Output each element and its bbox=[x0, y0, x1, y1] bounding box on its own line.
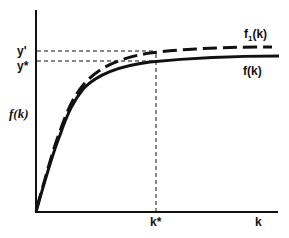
f1-k-label-arg: (k) bbox=[252, 27, 267, 41]
f-k-label: f(k) bbox=[243, 64, 262, 78]
x-axis-label: k bbox=[255, 215, 262, 229]
y-star-label: y* bbox=[17, 59, 29, 73]
y-axis-label: f(k) bbox=[9, 106, 29, 121]
production-function-chart: y' y* f(k) f1(k) f(k) k* k bbox=[0, 0, 289, 238]
k-star-label: k* bbox=[150, 215, 162, 229]
f1-k-curve bbox=[37, 47, 272, 207]
y-prime-label: y' bbox=[17, 44, 27, 58]
f-k-curve bbox=[36, 56, 279, 212]
f1-k-label: f1(k) bbox=[244, 27, 267, 43]
